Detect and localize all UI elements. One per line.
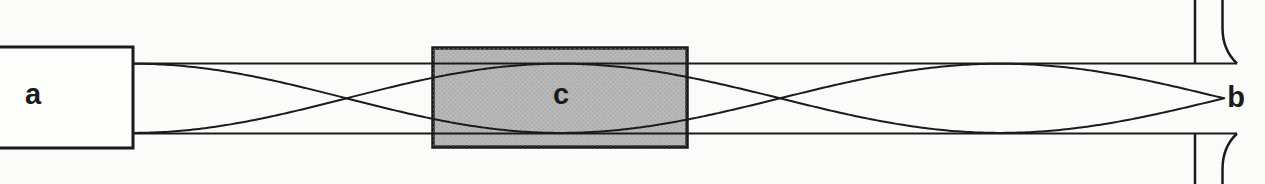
label-source-a: a bbox=[25, 78, 42, 110]
diagram-shapes bbox=[0, 0, 1265, 184]
diagram-canvas: a c b bbox=[0, 0, 1265, 184]
label-output-b: b bbox=[1227, 81, 1245, 113]
standing-wave-tube-figure: a c b bbox=[0, 0, 1265, 184]
source-box-a bbox=[0, 47, 133, 148]
label-medium-c: c bbox=[553, 78, 569, 110]
